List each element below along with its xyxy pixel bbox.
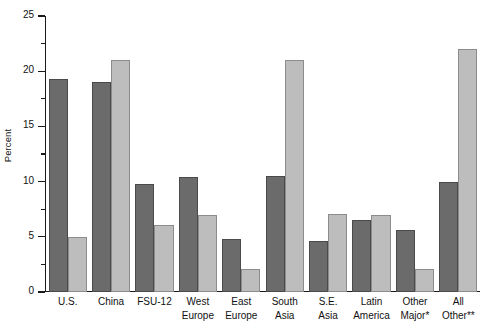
x-tick-label-line1: FSU-12 bbox=[137, 296, 171, 307]
bar-group bbox=[266, 16, 304, 292]
x-tick-label-line1: South bbox=[272, 296, 298, 307]
y-tick-major bbox=[38, 15, 45, 16]
y-tick-minor bbox=[41, 98, 46, 99]
bar-dark bbox=[92, 82, 111, 292]
bar-light bbox=[415, 269, 434, 292]
bar-group bbox=[135, 16, 173, 292]
bar-group bbox=[439, 16, 477, 292]
y-tick-major bbox=[38, 71, 45, 72]
y-axis-title: Percent bbox=[0, 0, 16, 291]
bar-dark bbox=[222, 239, 241, 292]
y-tick-minor bbox=[41, 43, 46, 44]
y-tick-minor bbox=[41, 264, 46, 265]
bar-dark bbox=[352, 220, 371, 292]
x-tick-label-line1: East bbox=[231, 296, 251, 307]
x-tick-label-line2: Other** bbox=[430, 309, 485, 323]
bar-chart: Percent 0510152025 U.S.ChinaFSU-12WestEu… bbox=[0, 0, 485, 333]
bar-group bbox=[309, 16, 347, 292]
bar-dark bbox=[309, 241, 328, 292]
y-tick-major bbox=[38, 291, 45, 292]
y-tick-minor bbox=[41, 153, 46, 154]
y-tick-label: 5 bbox=[0, 231, 34, 241]
y-tick-major bbox=[38, 126, 45, 127]
x-tick-label-line1: West bbox=[187, 296, 210, 307]
bar-light bbox=[68, 237, 87, 292]
bar-group bbox=[179, 16, 217, 292]
x-tick-label-line1: Latin bbox=[361, 296, 383, 307]
x-tick-label-line1: All bbox=[453, 296, 464, 307]
y-tick-label: 25 bbox=[0, 10, 34, 20]
y-tick-label: 0 bbox=[0, 286, 34, 296]
x-axis-labels: U.S.ChinaFSU-12WestEuropeEastEuropeSouth… bbox=[46, 295, 480, 333]
bar-light bbox=[111, 60, 130, 292]
bar-light bbox=[285, 60, 304, 292]
bar-group bbox=[396, 16, 434, 292]
bar-dark bbox=[396, 230, 415, 292]
plot-area bbox=[46, 16, 480, 292]
bar-light bbox=[154, 225, 173, 292]
y-axis-title-label: Percent bbox=[3, 129, 14, 162]
x-tick-label-line1: S.E. bbox=[319, 296, 338, 307]
bar-dark bbox=[439, 182, 458, 292]
y-tick-minor bbox=[41, 209, 46, 210]
y-tick-label: 10 bbox=[0, 176, 34, 186]
x-tick-label-line1: Other bbox=[402, 296, 427, 307]
bar-group bbox=[222, 16, 260, 292]
bar-group bbox=[92, 16, 130, 292]
bar-dark bbox=[266, 176, 285, 292]
bar-light bbox=[241, 269, 260, 292]
y-tick-major bbox=[38, 181, 45, 182]
y-tick-label: 20 bbox=[0, 65, 34, 75]
y-tick-label: 15 bbox=[0, 120, 34, 130]
bar-light bbox=[458, 49, 477, 292]
bar-light bbox=[371, 215, 390, 292]
x-tick-label-line1: U.S. bbox=[58, 296, 77, 307]
bar-dark bbox=[135, 184, 154, 292]
bar-light bbox=[328, 214, 347, 292]
y-tick-major bbox=[38, 236, 45, 237]
bar-light bbox=[198, 215, 217, 292]
bar-group bbox=[352, 16, 390, 292]
x-tick-label-line1: China bbox=[98, 296, 124, 307]
x-tick-label: AllOther** bbox=[430, 295, 485, 322]
bar-dark bbox=[49, 79, 68, 292]
bar-dark bbox=[179, 177, 198, 292]
bar-group bbox=[49, 16, 87, 292]
